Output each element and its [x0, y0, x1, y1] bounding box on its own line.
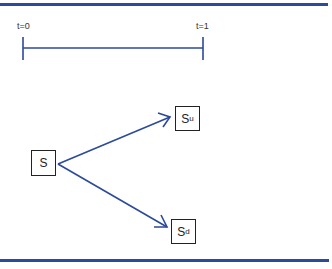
bottom-border-rule — [0, 259, 329, 262]
timeline-axis — [23, 37, 203, 60]
node-s-down-label: S — [177, 225, 185, 239]
node-s-up-subscript: u — [189, 114, 193, 123]
node-s-label: S — [39, 156, 47, 170]
node-s: S — [31, 150, 56, 176]
binomial-tree-diagram — [0, 0, 332, 269]
node-s-down-subscript: d — [185, 227, 189, 236]
node-s-up-label: S — [181, 112, 189, 126]
up-branch-arrow — [58, 113, 170, 164]
node-s-up: Su — [175, 106, 200, 131]
node-s-down: Sd — [171, 219, 196, 244]
down-branch-arrow — [58, 164, 167, 227]
